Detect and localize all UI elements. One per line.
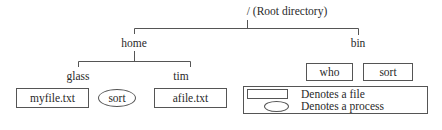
process-sort-label: sort <box>108 92 125 104</box>
process-sort: sort <box>98 89 136 107</box>
directory-bin-label: bin <box>351 37 366 50</box>
legend-process-symbol <box>264 101 289 112</box>
legend-process-text: Denotes a process <box>301 100 384 112</box>
file-sort-bin: sort <box>363 63 413 81</box>
directory-tim-label: tim <box>173 70 188 83</box>
legend-file-symbol <box>247 89 288 99</box>
directory-home-label: home <box>121 37 147 50</box>
file-who: who <box>306 63 353 81</box>
file-who-label: who <box>320 66 340 78</box>
file-myfile: myfile.txt <box>16 88 89 108</box>
root-directory-label: / (Root directory) <box>247 5 327 18</box>
file-afile-label: afile.txt <box>173 92 208 104</box>
directory-glass-label: glass <box>67 70 90 83</box>
legend-file-text: Denotes a file <box>301 88 365 100</box>
file-myfile-label: myfile.txt <box>30 92 75 104</box>
file-sort-label: sort <box>379 66 396 78</box>
legend: Denotes a file Denotes a process <box>243 86 428 114</box>
file-afile: afile.txt <box>154 88 227 108</box>
